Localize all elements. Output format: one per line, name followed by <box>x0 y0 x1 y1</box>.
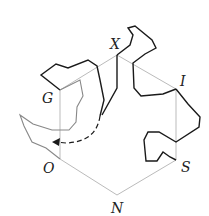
hexagon-outline <box>60 55 176 195</box>
curve-from-x <box>102 55 117 115</box>
hexagon-diagram: X I G O S N <box>0 0 209 216</box>
arrowhead-icon <box>52 138 60 146</box>
label-o: O <box>43 160 55 176</box>
label-s: S <box>181 159 191 175</box>
label-n: N <box>110 200 124 216</box>
curve-top-right <box>117 26 176 96</box>
curve-right <box>144 89 200 161</box>
label-g: G <box>42 90 53 106</box>
label-i: I <box>179 73 186 89</box>
label-x: X <box>109 36 121 52</box>
